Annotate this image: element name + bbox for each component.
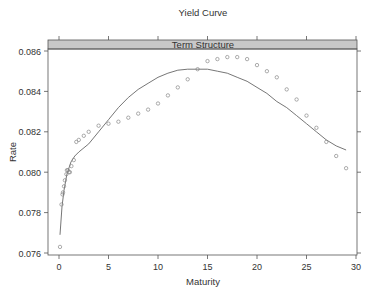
data-point <box>255 63 258 66</box>
x-tick-label: 0 <box>56 262 61 272</box>
data-point <box>146 108 149 111</box>
x-tick-label: 25 <box>301 262 311 272</box>
y-tick-label: 0.078 <box>18 208 41 218</box>
yield-curve-chart: Yield Curve Term Structure 0.0760.0780.0… <box>0 0 381 304</box>
data-point <box>236 55 239 58</box>
data-point <box>275 76 278 79</box>
data-point <box>206 59 209 62</box>
data-point <box>226 55 229 58</box>
right-ticks <box>357 51 361 253</box>
data-point <box>107 122 110 125</box>
x-tick-label: 5 <box>106 262 111 272</box>
data-point <box>186 78 189 81</box>
data-point <box>97 124 100 127</box>
data-point <box>335 154 338 157</box>
data-point <box>127 116 130 119</box>
data-point <box>315 126 318 129</box>
data-point <box>58 245 61 248</box>
data-point <box>137 112 140 115</box>
data-point <box>77 138 80 141</box>
y-axis: 0.0760.0780.0800.0820.0840.086 <box>18 47 48 259</box>
panel-strip-label: Term Structure <box>172 39 234 50</box>
data-point <box>285 88 288 91</box>
data-point <box>166 94 169 97</box>
data-point <box>82 134 85 137</box>
data-point <box>70 164 73 167</box>
data-point <box>176 86 179 89</box>
y-tick-label: 0.080 <box>18 168 41 178</box>
x-axis-label: Maturity <box>186 276 220 287</box>
x-tick-label: 10 <box>153 262 163 272</box>
x-axis: 051015202530 <box>56 255 361 272</box>
data-point <box>117 120 120 123</box>
data-point <box>295 98 298 101</box>
chart-title: Yield Curve <box>179 7 228 18</box>
data-point <box>245 57 248 60</box>
observed-points <box>58 55 348 248</box>
data-point <box>325 140 328 143</box>
data-point <box>156 102 159 105</box>
y-tick-label: 0.076 <box>18 249 41 259</box>
data-point <box>87 130 90 133</box>
y-tick-label: 0.086 <box>18 47 41 57</box>
y-axis-label: Rate <box>7 142 18 162</box>
data-point <box>265 70 268 73</box>
data-point <box>216 57 219 60</box>
data-point <box>305 114 308 117</box>
x-tick-label: 15 <box>202 262 212 272</box>
y-tick-label: 0.082 <box>18 127 41 137</box>
x-tick-label: 20 <box>252 262 262 272</box>
y-tick-label: 0.084 <box>18 87 41 97</box>
fitted-curve <box>60 69 346 235</box>
data-point <box>344 167 347 170</box>
x-tick-label: 30 <box>351 262 361 272</box>
plot-panel <box>48 49 357 255</box>
